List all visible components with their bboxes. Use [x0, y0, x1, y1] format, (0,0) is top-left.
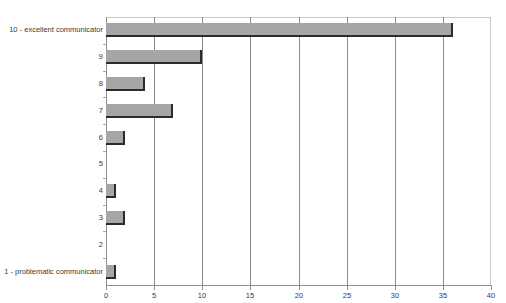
bar [106, 265, 116, 279]
x-axis-tick [443, 286, 444, 290]
y-axis-label: 5 [1, 159, 103, 168]
x-axis-label: 35 [431, 291, 455, 301]
bar [106, 77, 145, 91]
y-axis-label: 10 - excellent communicator [1, 25, 103, 34]
bar [106, 211, 125, 225]
gridline [202, 17, 203, 285]
y-axis-tick [103, 178, 106, 179]
x-axis-label: 20 [287, 291, 311, 301]
y-axis-label: 6 [1, 133, 103, 142]
bar [106, 50, 202, 64]
x-axis-tick [491, 286, 492, 290]
y-axis-tick [103, 71, 106, 72]
y-axis-labels: 10 - excellent communicator987654321 - p… [0, 17, 103, 285]
y-axis-tick [103, 151, 106, 152]
gridline [443, 17, 444, 285]
bar [106, 184, 116, 198]
x-axis-tick [299, 286, 300, 290]
bar-chart: 10 - excellent communicator987654321 - p… [0, 0, 506, 303]
x-axis-tick [154, 286, 155, 290]
y-axis-label: 8 [1, 79, 103, 88]
x-axis-label: 15 [238, 291, 262, 301]
gridline [250, 17, 251, 285]
y-axis-label: 7 [1, 106, 103, 115]
x-axis-tick [106, 286, 107, 290]
x-axis-tick [250, 286, 251, 290]
y-axis-tick [103, 124, 106, 125]
x-axis-label: 0 [94, 291, 118, 301]
y-axis-label: 4 [1, 186, 103, 195]
y-axis-label: 1 - problematic communicator [1, 267, 103, 276]
y-axis-label: 2 [1, 240, 103, 249]
y-axis-tick [103, 231, 106, 232]
x-axis-label: 5 [142, 291, 166, 301]
y-axis-tick [103, 97, 106, 98]
x-axis-tick [347, 286, 348, 290]
bar [106, 131, 125, 145]
y-axis-label: 3 [1, 213, 103, 222]
x-axis-label: 25 [335, 291, 359, 301]
y-axis-tick [103, 44, 106, 45]
chart-title [0, 0, 506, 2]
x-axis-label: 10 [190, 291, 214, 301]
y-axis-label: 9 [1, 52, 103, 61]
x-axis-label: 30 [383, 291, 407, 301]
gridline [347, 17, 348, 285]
gridline [299, 17, 300, 285]
y-axis-tick [103, 205, 106, 206]
bar [106, 104, 173, 118]
bar [106, 23, 453, 37]
x-axis-tick [202, 286, 203, 290]
x-axis-tick [395, 286, 396, 290]
x-axis-label: 40 [479, 291, 503, 301]
y-axis-tick [103, 258, 106, 259]
gridline [395, 17, 396, 285]
